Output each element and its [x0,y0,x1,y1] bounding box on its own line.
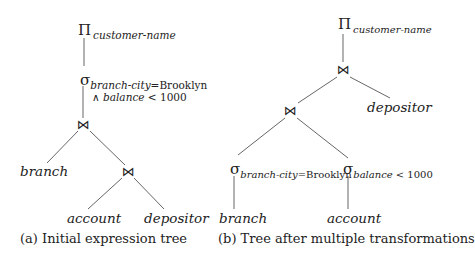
natural-join-icon: ⋈ [77,117,90,132]
tree-b-selection-left: σbranch-city=Brooklyn [230,161,352,180]
selection-condition-attr: balance [353,169,392,180]
and-icon: ∧ [92,91,100,103]
edge-b-join-sel-right [297,118,348,158]
tree-a-caption: (a) Initial expression tree [20,232,187,245]
tree-b-leaf-branch: branch [219,212,267,226]
tree-b-join-lower: ⋈ [284,104,297,117]
tree-b-projection-node: Πcustomer-name [338,16,432,35]
selection-icon: σ [343,160,353,178]
projection-icon: Π [78,21,91,39]
edge-a-join-account [88,178,122,209]
tree-a-leaf-depositor: depositor [144,212,209,226]
tree-b-leaf-depositor: depositor [367,101,432,115]
tree-a-join-bottom: ⋈ [122,165,135,178]
tree-b-selection-right: σbalance< 1000 [343,161,433,180]
selection-condition-value: < 1000 [396,169,433,180]
projection-attribute: customer-name [353,24,432,35]
edge-a-join-join [90,131,125,165]
selection-condition-attr: branch-city [240,169,297,180]
selection-condition-attr: branch-city [90,79,150,91]
tree-a-projection-node: Πcustomer-name [78,22,176,41]
projection-attribute: customer-name [93,29,176,41]
tree-a-selection-node: σbranch-city=Brooklyn [80,72,207,91]
selection-condition2-attr: balance [103,91,144,103]
edge-a-join-branch [47,131,78,163]
edge-b-join-sel-left [238,118,285,155]
edge-a-join-depositor [134,178,164,209]
natural-join-icon: ⋈ [122,164,135,179]
tree-b-caption: (b) Tree after multiple transformations [218,232,475,245]
selection-condition-value: =Brooklyn [151,79,208,91]
tree-b-join-top: ⋈ [337,63,350,76]
natural-join-icon: ⋈ [337,62,350,77]
tree-a-join-top: ⋈ [77,118,90,131]
edge-b-join-depositor [350,77,390,98]
natural-join-icon: ⋈ [284,103,297,118]
tree-b-leaf-account: account [327,212,381,226]
edge-b-join-join [298,77,337,103]
selection-icon: σ [80,71,90,89]
tree-a-leaf-account: account [67,212,121,226]
projection-icon: Π [338,15,351,33]
tree-a-leaf-branch: branch [20,165,68,179]
selection-condition2-value: < 1000 [148,91,187,103]
tree-a-selection-condition2: ∧ balance < 1000 [92,92,187,103]
selection-icon: σ [230,160,240,178]
